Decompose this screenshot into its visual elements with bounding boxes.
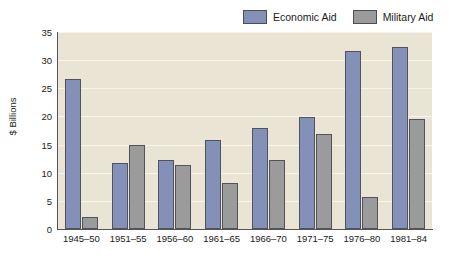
bar-military-aid <box>82 217 98 229</box>
bar-military-aid <box>222 183 238 229</box>
plot-area <box>58 32 432 229</box>
y-axis-tick-label: 20 <box>41 111 52 122</box>
x-axis-tick-labels: 1945–501951–551956–601961–651966–701971–… <box>58 233 432 251</box>
y-axis-tick-label: 35 <box>41 27 52 38</box>
x-axis-tick-label: 1976–80 <box>343 233 380 244</box>
y-axis-tick-label: 30 <box>41 55 52 66</box>
x-axis-tick-label: 1951–55 <box>110 233 147 244</box>
legend-item-economic-aid: Economic Aid <box>243 10 337 24</box>
legend-swatch-military-aid <box>353 10 377 24</box>
x-axis-tick-label: 1971–75 <box>297 233 334 244</box>
bar-economic-aid <box>205 140 221 229</box>
bar-economic-aid <box>345 51 361 229</box>
y-axis-title-text: $ Billions <box>7 97 18 135</box>
bar-military-aid <box>362 197 378 229</box>
y-axis-tick-label: 10 <box>41 167 52 178</box>
y-axis-tick-label: 25 <box>41 83 52 94</box>
x-axis-tick-label: 1956–60 <box>156 233 193 244</box>
legend-swatch-economic-aid <box>243 10 267 24</box>
bar-chart: Economic Aid Military Aid $ Billions 051… <box>0 0 450 273</box>
gridline <box>58 116 432 117</box>
x-axis-tick-label: 1961–65 <box>203 233 240 244</box>
y-axis-line <box>57 32 58 230</box>
gridline <box>58 88 432 89</box>
y-axis-tick-labels: 05101520253035 <box>24 32 56 229</box>
x-axis-tick-label: 1945–50 <box>63 233 100 244</box>
legend-label-military-aid: Military Aid <box>383 11 434 23</box>
chart-legend: Economic Aid Military Aid <box>243 8 433 26</box>
bar-military-aid <box>175 165 191 229</box>
bar-economic-aid <box>158 160 174 229</box>
gridline <box>58 60 432 61</box>
bar-economic-aid <box>299 117 315 229</box>
bar-military-aid <box>409 119 425 229</box>
x-axis-line <box>57 229 433 230</box>
y-axis-tick-label: 15 <box>41 139 52 150</box>
bar-military-aid <box>129 145 145 229</box>
bar-economic-aid <box>392 47 408 229</box>
x-axis-tick-label: 1981–84 <box>390 233 427 244</box>
bar-military-aid <box>269 160 285 229</box>
x-axis-tick-label: 1966–70 <box>250 233 287 244</box>
legend-item-military-aid: Military Aid <box>353 10 434 24</box>
bar-economic-aid <box>65 79 81 229</box>
bar-economic-aid <box>112 163 128 229</box>
y-axis-tick-label: 0 <box>47 224 52 235</box>
gridline <box>58 32 432 33</box>
bar-military-aid <box>316 134 332 229</box>
y-axis-tick-label: 5 <box>47 195 52 206</box>
bar-economic-aid <box>252 128 268 229</box>
y-axis-title: $ Billions <box>2 0 22 232</box>
legend-label-economic-aid: Economic Aid <box>273 11 337 23</box>
gridline <box>58 145 432 146</box>
